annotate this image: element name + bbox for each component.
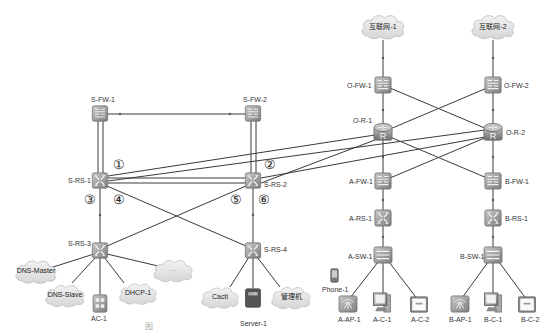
label-b-c-2: B-C-2 — [521, 316, 539, 324]
device-s-fw-2-icon[interactable] — [245, 106, 260, 121]
label-server-1: Server-1 — [240, 320, 267, 328]
device-server-1-icon[interactable] — [246, 289, 261, 307]
label-b-sw-1: B-SW-1 — [460, 253, 484, 261]
device-a-c-2-icon[interactable] — [411, 297, 428, 312]
device-a-fw-1-icon[interactable] — [375, 173, 391, 189]
device-s-rs-3-icon[interactable] — [92, 243, 107, 258]
device-s-rs-1-icon[interactable] — [92, 173, 107, 188]
label-o-r-1: O-R-1 — [353, 117, 372, 125]
link-marker-1: ① — [113, 158, 125, 172]
device-b-ap-1-icon[interactable] — [451, 296, 469, 312]
device-s-rs-2-icon[interactable] — [245, 173, 260, 188]
label-s-rs-3: S-RS-3 — [68, 240, 91, 248]
cloud-label-cacti: Cacti — [200, 293, 240, 301]
cloud-label-dns-slave: DNS-Slave — [44, 291, 86, 299]
label-a-c-2: A-C-2 — [411, 316, 429, 324]
label-b-ap-1: B-AP-1 — [449, 316, 472, 324]
label-a-ap-1: A-AP-1 — [338, 316, 361, 324]
link-marker-2: ② — [264, 158, 276, 172]
cloud-label-internet-2: 互联网-2 — [472, 23, 514, 31]
device-b-c-1-icon[interactable] — [484, 293, 501, 312]
device-a-sw-1-icon[interactable] — [374, 247, 392, 263]
label-a-sw-1: A-SW-1 — [348, 253, 372, 261]
label-s-fw-1: S-FW-1 — [91, 96, 115, 104]
label-a-c-1: A-C-1 — [373, 316, 391, 324]
label-a-fw-1: A-FW-1 — [349, 178, 373, 186]
device-s-fw-1-icon[interactable] — [92, 106, 107, 121]
device-b-sw-1-icon[interactable] — [484, 247, 502, 263]
label-o-fw-1: O-FW-1 — [347, 82, 372, 90]
label-b-fw-1: B-FW-1 — [505, 178, 529, 186]
device-a-ap-1-icon[interactable] — [339, 296, 357, 312]
label-a-rs-1: A-RS-1 — [349, 215, 372, 223]
device-b-fw-1-icon[interactable] — [485, 173, 501, 189]
device-b-c-2-icon[interactable] — [519, 297, 536, 312]
label-b-rs-1: B-RS-1 — [505, 215, 528, 223]
cloud-label-unnamed: — — [152, 266, 194, 274]
label-o-r-2: O-R-2 — [506, 129, 525, 137]
link-marker-3: ③ — [84, 193, 96, 207]
cloud-label-internet-1: 互联网-1 — [362, 23, 404, 31]
label-s-fw-2: S-FW-2 — [243, 96, 267, 104]
device-o-r-2-icon[interactable] — [484, 123, 502, 140]
label-phone-1: Phone-1 — [322, 286, 348, 294]
device-a-rs-1-icon[interactable] — [375, 210, 391, 226]
label-s-rs-4: S-RS-4 — [264, 246, 287, 254]
cloud-label-management: 管理机 — [270, 293, 312, 301]
cloud-label-dns-master: DNS-Master — [12, 267, 60, 275]
label-s-rs-2: S-RS-2 — [264, 181, 287, 189]
device-o-fw-1-icon[interactable] — [375, 77, 391, 93]
device-a-c-1-icon[interactable] — [373, 293, 390, 312]
network-topology-diagram: R COM — [0, 0, 552, 336]
link-marker-4: ④ — [113, 193, 125, 207]
device-o-r-1-icon[interactable] — [374, 123, 392, 140]
figure-caption: 图 — [145, 323, 153, 331]
label-b-c-1: B-C-1 — [484, 316, 502, 324]
device-b-rs-1-icon[interactable] — [485, 210, 501, 226]
label-ac-1: AC-1 — [91, 315, 107, 323]
label-s-rs-1: S-RS-1 — [68, 177, 91, 185]
device-ac-1-icon[interactable] — [93, 295, 107, 312]
link-marker-5: ⑤ — [230, 193, 242, 207]
label-o-fw-2: O-FW-2 — [504, 82, 529, 90]
link-marker-6: ⑥ — [258, 193, 270, 207]
cloud-label-dhcp-1: DHCP-1 — [118, 289, 158, 297]
device-s-rs-4-icon[interactable] — [245, 243, 260, 258]
device-phone-1-icon[interactable] — [331, 269, 339, 283]
device-o-fw-2-icon[interactable] — [485, 77, 501, 93]
